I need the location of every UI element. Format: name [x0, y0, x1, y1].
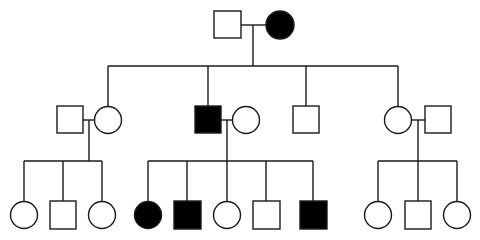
- generation-1: [214, 11, 294, 66]
- male-affected-III-5: [174, 201, 201, 229]
- male-unaffected-II-7: [425, 106, 451, 133]
- male-affected-III-8: [300, 201, 327, 229]
- male-unaffected-III-2: [50, 201, 76, 229]
- generation-2: [57, 106, 451, 161]
- male-unaffected-I-1: [214, 11, 241, 38]
- generation-3: [11, 201, 471, 229]
- pedigree-chart: [0, 0, 480, 240]
- female-unaffected-II-2: [95, 107, 122, 134]
- female-unaffected-II-4: [233, 107, 260, 134]
- female-unaffected-III-6: [214, 202, 241, 229]
- female-unaffected-III-1: [11, 202, 38, 229]
- female-unaffected-III-3: [89, 202, 116, 229]
- female-unaffected-III-9: [365, 202, 392, 229]
- female-unaffected-III-11: [444, 202, 471, 229]
- male-unaffected-III-10: [405, 201, 431, 229]
- male-unaffected-III-7: [253, 201, 280, 229]
- female-unaffected-II-6: [385, 107, 412, 134]
- female-affected-I-2: [266, 11, 294, 39]
- male-unaffected-II-1: [57, 106, 83, 133]
- female-affected-III-4: [135, 202, 162, 229]
- male-affected-II-3: [195, 106, 221, 133]
- male-unaffected-II-5: [293, 106, 319, 133]
